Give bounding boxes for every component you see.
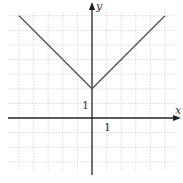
x-axis-label: x	[175, 104, 182, 117]
y-axis-arrow-icon	[89, 2, 95, 10]
x-tick-label: 1	[104, 121, 111, 134]
y-tick-label: 1	[82, 99, 89, 112]
coordinate-plane: x y 1 1	[0, 0, 183, 183]
y-axis-label: y	[95, 0, 103, 13]
graph: x y 1 1	[0, 0, 183, 183]
